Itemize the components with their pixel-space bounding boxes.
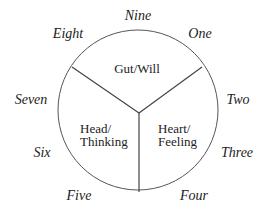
type-label-six: Six [33,145,51,160]
head-label-line2: Thinking [80,134,128,149]
gut-will-label: Gut/Will [114,61,160,76]
type-label-nine: Nine [124,8,151,23]
type-label-three: Three [221,145,253,160]
type-label-two: Two [226,92,249,107]
type-label-seven: Seven [15,92,48,107]
type-label-one: One [188,26,211,41]
enneagram-centers-diagram: Gut/Will Head/ Thinking Heart/ Feeling N… [0,0,265,211]
type-label-four: Four [179,188,209,203]
outer-circle [58,30,218,190]
heart-label-line2: Feeling [158,134,197,149]
type-label-eight: Eight [52,26,84,41]
type-label-five: Five [66,188,92,203]
